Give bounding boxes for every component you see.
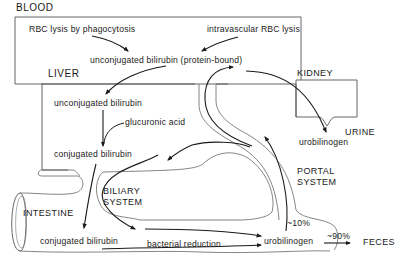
region-biliary-label-1: BILIARY: [103, 187, 140, 196]
unconjugated-bilirubin-blood-label: unconjugated bilirubin (protein-bound): [90, 56, 242, 65]
region-urine-label: URINE: [345, 128, 375, 137]
region-kidney-label: KIDNEY: [297, 69, 333, 78]
region-biliary-label-2: SYSTEM: [103, 198, 142, 207]
region-intestine-label: INTESTINE: [23, 209, 74, 218]
conjugated-bilirubin-intestine-label: conjugated bilirubin: [40, 237, 118, 246]
region-liver-label: LIVER: [48, 69, 79, 79]
urobilinogen-urine-label: urobilinogen: [299, 138, 348, 147]
glucuronic-acid-label: glucuronic acid: [125, 118, 185, 127]
unconjugated-bilirubin-liver-label: unconjugated bilirubin: [54, 99, 142, 108]
region-blood-label: BLOOD: [16, 3, 54, 13]
conjugated-bilirubin-liver-label: conjugated bilirubin: [54, 150, 132, 159]
bacterial-reduction-label: bacterial reduction: [147, 240, 221, 249]
rbc-intravascular-label: intravascular RBC lysis: [207, 25, 300, 34]
rbc-phagocytosis-label: RBC lysis by phagocytosis: [29, 25, 135, 34]
percent-portal-label: ~10%: [287, 219, 310, 228]
percent-feces-label: ~90%: [327, 232, 350, 241]
urobilinogen-intestine-label: urobilinogen: [264, 237, 313, 246]
region-portal-label-1: PORTAL: [297, 167, 335, 176]
region-feces-label: FECES: [363, 238, 395, 247]
region-portal-label-2: SYSTEM: [297, 178, 336, 187]
